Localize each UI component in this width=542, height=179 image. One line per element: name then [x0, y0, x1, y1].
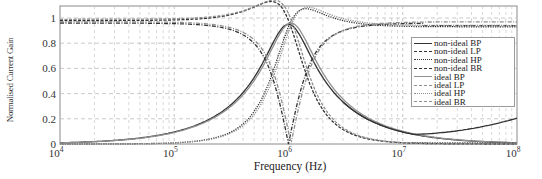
y-axis-label: Normalised Current Gain — [2, 20, 18, 140]
x-tick-label: 104 — [49, 145, 64, 159]
legend-item: ideal BP — [414, 73, 514, 81]
y-tick-label: 0.2 — [42, 113, 56, 125]
x-tick-label: 107 — [391, 145, 406, 159]
legend-line-swatch-icon — [414, 68, 432, 69]
x-tick-label: 106 — [277, 145, 292, 159]
y-tick-label: 0.6 — [42, 62, 56, 74]
y-tick-label: 0.8 — [42, 37, 56, 49]
legend-line-swatch-icon — [414, 85, 432, 86]
legend-line-swatch-icon — [414, 43, 432, 44]
legend-line-swatch-icon — [414, 76, 432, 77]
x-tick-label: 108 — [506, 145, 521, 159]
legend-label: ideal BR — [434, 98, 466, 106]
y-axis-label-text: Normalised Current Gain — [5, 38, 15, 123]
y-tick-label: 1 — [51, 12, 57, 24]
legend-line-swatch-icon — [414, 59, 432, 60]
legend-line-swatch-icon — [414, 101, 432, 102]
legend-item: ideal BR — [414, 98, 514, 106]
x-tick-label: 105 — [163, 145, 178, 159]
chart-legend: non-ideal BPnon-ideal LPnon-ideal HPnon-… — [411, 37, 515, 107]
legend-line-swatch-icon — [414, 51, 432, 52]
x-axis-label: Frequency (Hz) — [200, 160, 380, 172]
y-tick-label: 0.4 — [42, 88, 56, 100]
legend-line-swatch-icon — [414, 93, 432, 94]
